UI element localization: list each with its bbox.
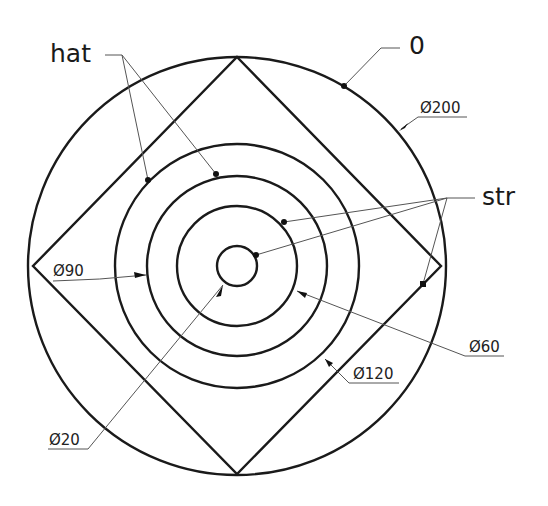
leader-dot [145,177,151,183]
circle-d90 [147,176,327,356]
str-leader [253,198,475,287]
leader-dot [420,281,426,287]
zero-leader [341,48,400,89]
leader-dot [253,252,259,258]
circle-d20 [217,246,257,286]
technical-drawing: hat 0 str Ø200 Ø90 Ø60 Ø120 Ø20 [0,0,548,506]
label-zero: 0 [409,31,425,60]
inscribed-square [33,57,441,474]
d200-leader [399,117,467,131]
label-d20: Ø20 [49,431,80,449]
label-d200: Ø200 [420,99,460,117]
leader-dot [213,171,219,177]
label-d90: Ø90 [53,262,84,280]
label-hat: hat [50,39,91,68]
label-d60: Ø60 [469,338,500,356]
label-d120: Ø120 [353,365,393,383]
hat-leader [105,55,219,183]
outer-circle-d200 [28,57,446,475]
circle-d120 [115,144,359,388]
leader-dot [341,83,347,89]
circle-d60 [177,206,297,326]
label-str: str [482,182,516,211]
leader-dot [281,219,287,225]
